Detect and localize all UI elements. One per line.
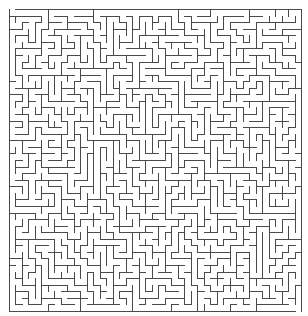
maze-wall-path [10, 10, 302, 312]
maze-board [8, 8, 300, 310]
maze-walls [8, 8, 302, 312]
